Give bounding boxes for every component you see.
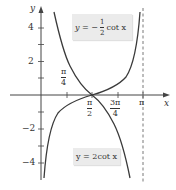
- annotation-2cot: y = 2cot x: [73, 148, 120, 165]
- x-tick-label-pi-over-4: π 4: [61, 68, 66, 87]
- y-axis-arrow-icon: [39, 6, 44, 13]
- x-tick-label-pi-over-2: π 2: [87, 99, 92, 118]
- y-tick-label-2: 2: [28, 57, 34, 66]
- y-tick-label-4: 4: [28, 23, 34, 32]
- x-tick-label-pi: π: [139, 99, 144, 107]
- y-tick-label-neg4: −4: [22, 158, 35, 167]
- x-tick-label-3pi-over-4: 3π 4: [110, 99, 120, 118]
- annotation-neg-half-cot: y = − 1 2 cot x: [72, 14, 132, 40]
- y-axis-label: y: [30, 4, 35, 13]
- x-axis-arrow-icon: [163, 93, 170, 98]
- fraction-one-half: 1 2: [100, 18, 104, 37]
- x-axis-label: x: [164, 99, 169, 108]
- y-tick-label-neg2: −2: [22, 124, 35, 133]
